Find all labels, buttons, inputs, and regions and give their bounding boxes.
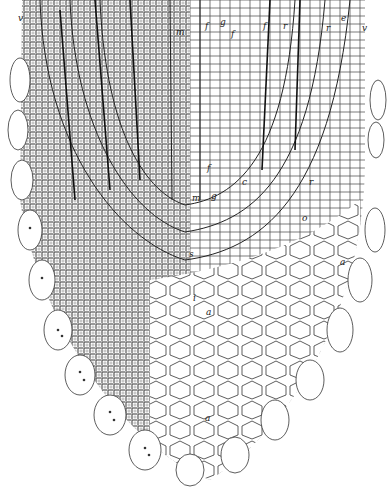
label-o-mid: o: [302, 214, 307, 223]
label-f-top-1: f: [205, 22, 208, 31]
label-f-top-3: f: [263, 22, 266, 31]
label-f-mid: f: [207, 164, 210, 173]
root-tip-illustration: [0, 0, 387, 487]
label-f-top-2: f: [231, 30, 234, 39]
label-m-mid: m: [192, 194, 201, 203]
label-a-bottom: a: [205, 414, 210, 423]
label-r-mid: r: [309, 178, 313, 187]
label-r-top-1: r: [283, 22, 287, 31]
label-g-top: g: [220, 18, 226, 27]
label-s-mid: s: [189, 250, 194, 259]
label-a-center: a: [206, 308, 211, 317]
label-i-center: i: [193, 294, 196, 303]
label-g-mid: g: [211, 192, 217, 201]
label-v-left: v: [18, 14, 23, 23]
label-m-top: m: [176, 28, 185, 37]
label-v-right: v: [362, 24, 367, 33]
label-r-top-2: r: [326, 24, 330, 33]
label-e-top: e: [341, 14, 346, 23]
label-c-mid: c: [242, 178, 247, 187]
label-a-right: a: [340, 258, 345, 267]
